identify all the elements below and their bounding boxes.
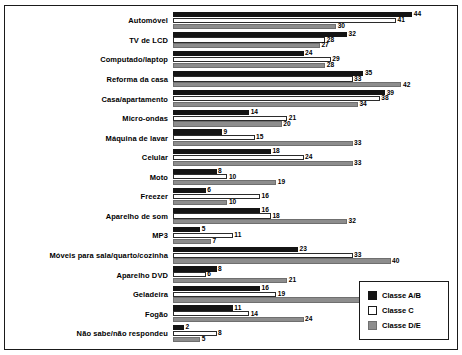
bar-value-label: 10 bbox=[229, 199, 236, 206]
bar-c bbox=[173, 233, 233, 238]
chart-category-row: Casa/apartamento393834 bbox=[5, 90, 457, 108]
bar-c bbox=[173, 253, 353, 258]
category-bars: 322827 bbox=[173, 32, 457, 50]
bar-track: 16 bbox=[173, 194, 457, 199]
bar-ab bbox=[173, 227, 200, 232]
bar-track: 9 bbox=[173, 129, 457, 134]
bar-track: 14 bbox=[173, 110, 457, 115]
bar-ab bbox=[173, 110, 249, 115]
category-label: Não sabe/não respondeu bbox=[5, 330, 173, 338]
category-label: Freezer bbox=[5, 193, 173, 201]
chart-category-row: Reforma da casa353342 bbox=[5, 71, 457, 89]
category-label: Aparelho DVD bbox=[5, 272, 173, 280]
category-bars: 444130 bbox=[173, 12, 457, 30]
category-bars: 91533 bbox=[173, 129, 457, 147]
bar-de bbox=[173, 219, 347, 224]
category-label: MP3 bbox=[5, 232, 173, 240]
bar-c bbox=[173, 331, 217, 336]
chart-category-row: Máquina de lavar91533 bbox=[5, 129, 457, 147]
bar-track: 32 bbox=[173, 219, 457, 224]
bar-value-label: 20 bbox=[283, 121, 290, 128]
bar-ab bbox=[173, 129, 222, 134]
bar-value-label: 27 bbox=[321, 42, 328, 49]
bar-c bbox=[173, 311, 249, 316]
bar-value-label: 21 bbox=[289, 277, 296, 284]
category-bars: 81019 bbox=[173, 169, 457, 187]
bar-track: 8 bbox=[173, 169, 457, 174]
bar-track: 6 bbox=[173, 188, 457, 193]
bar-track: 19 bbox=[173, 180, 457, 185]
bar-track: 24 bbox=[173, 155, 457, 160]
bar-track: 44 bbox=[173, 12, 457, 17]
chart-category-row: Computado/laptop242928 bbox=[5, 51, 457, 69]
bar-value-label: 33 bbox=[354, 160, 361, 167]
bar-c bbox=[173, 76, 353, 81]
chart-category-row: Celular182433 bbox=[5, 149, 457, 167]
grouped-bar-chart: Automóvel444130TV de LCD322827Computado/… bbox=[0, 0, 462, 355]
chart-category-row: Micro-ondas142120 bbox=[5, 110, 457, 128]
legend-swatch-icon bbox=[368, 291, 377, 300]
bar-track: 35 bbox=[173, 71, 457, 76]
chart-legend: Classe A/BClasse CClasse D/E bbox=[359, 281, 449, 340]
bar-de bbox=[173, 278, 287, 283]
category-label: Móveis para sala/quarto/cozinha bbox=[5, 252, 173, 260]
bar-track: 23 bbox=[173, 247, 457, 252]
bar-ab bbox=[173, 12, 412, 17]
bar-track: 41 bbox=[173, 18, 457, 23]
bar-c bbox=[173, 57, 331, 62]
bar-track: 42 bbox=[173, 82, 457, 87]
legend-swatch-icon bbox=[368, 321, 377, 330]
bar-c bbox=[173, 194, 260, 199]
bar-track: 33 bbox=[173, 76, 457, 81]
bar-de bbox=[173, 82, 401, 87]
bar-track: 18 bbox=[173, 213, 457, 218]
bar-de bbox=[173, 63, 325, 68]
legend-label: Classe A/B bbox=[382, 292, 421, 300]
bar-track: 40 bbox=[173, 258, 457, 263]
chart-category-row: TV de LCD322827 bbox=[5, 32, 457, 50]
category-label: Máquina de lavar bbox=[5, 135, 173, 143]
bar-value-label: 24 bbox=[305, 316, 312, 323]
bar-track: 5 bbox=[173, 227, 457, 232]
bar-track: 15 bbox=[173, 135, 457, 140]
legend-item: Classe D/E bbox=[368, 318, 441, 333]
bar-track: 38 bbox=[173, 96, 457, 101]
bar-de bbox=[173, 102, 358, 107]
bar-ab bbox=[173, 188, 206, 193]
category-bars: 5117 bbox=[173, 227, 457, 245]
category-bars: 142120 bbox=[173, 110, 457, 128]
bar-track: 21 bbox=[173, 116, 457, 121]
bar-track: 30 bbox=[173, 24, 457, 29]
bar-track: 8 bbox=[173, 266, 457, 271]
legend-label: Classe D/E bbox=[382, 322, 421, 330]
bar-de bbox=[173, 239, 211, 244]
bar-value-label: 19 bbox=[278, 179, 285, 186]
bar-value-label: 40 bbox=[392, 258, 399, 265]
bar-c bbox=[173, 116, 287, 121]
chart-category-row: Moto81019 bbox=[5, 169, 457, 187]
bar-de bbox=[173, 161, 353, 166]
category-label: Reforma da casa bbox=[5, 76, 173, 84]
category-label: Casa/apartamento bbox=[5, 96, 173, 104]
bar-de bbox=[173, 24, 336, 29]
bar-c bbox=[173, 155, 304, 160]
category-label: Automóvel bbox=[5, 17, 173, 25]
bar-track: 34 bbox=[173, 102, 457, 107]
chart-category-row: Automóvel444130 bbox=[5, 12, 457, 30]
bar-track: 24 bbox=[173, 51, 457, 56]
bar-value-label: 34 bbox=[359, 101, 366, 108]
bar-value-label: 30 bbox=[338, 23, 345, 30]
bar-c bbox=[173, 18, 396, 23]
bar-track: 33 bbox=[173, 161, 457, 166]
bar-track: 28 bbox=[173, 63, 457, 68]
bar-de bbox=[173, 180, 276, 185]
category-bars: 353342 bbox=[173, 71, 457, 89]
bar-ab bbox=[173, 71, 363, 76]
bar-c bbox=[173, 37, 325, 42]
category-bars: 182433 bbox=[173, 149, 457, 167]
category-label: Micro-ondas bbox=[5, 115, 173, 123]
bar-de bbox=[173, 258, 391, 263]
category-label: Celular bbox=[5, 154, 173, 162]
chart-category-row: Freezer61610 bbox=[5, 188, 457, 206]
bar-track: 10 bbox=[173, 200, 457, 205]
